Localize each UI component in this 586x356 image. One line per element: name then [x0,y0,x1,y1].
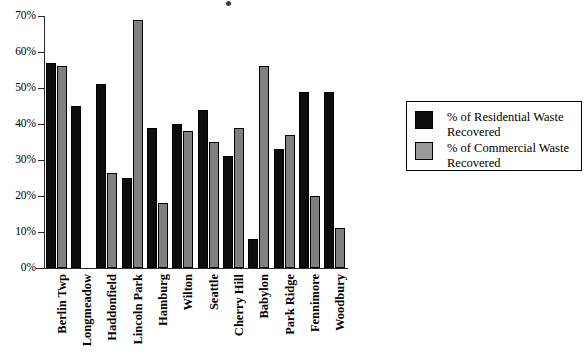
x-axis-label-text: Hamburg [156,274,169,326]
bar-commercial [310,196,320,268]
legend-label-commercial: % of Commercial Waste Recovered [447,141,575,171]
bar-commercial [158,203,168,268]
x-axis-label-text: Park Ridge [283,274,296,335]
y-axis-tick-label: 20% [2,190,36,202]
bar-residential [223,156,233,268]
bar-commercial [57,66,67,268]
y-axis-tick-label: 50% [2,82,36,94]
x-axis-label-text: Haddonfield [106,274,119,341]
bar-residential [71,106,81,268]
bar-residential [122,178,132,268]
bar-residential [274,149,284,268]
bar-residential [147,128,157,268]
x-axis-label-text: Cherry Hill [232,274,245,336]
x-axis-label: Lincoln Park [131,274,145,354]
black-square-swatch [415,111,433,129]
x-axis-label-text: Woodbury [334,274,347,331]
y-axis-tick-label-wrap: 70% [0,10,36,22]
bar-group [299,16,320,268]
x-axis-label: Fennimore [308,274,322,354]
bar-group [248,16,269,268]
cropped-title-artifact [226,1,231,6]
y-axis-tick-label-wrap: 30% [0,154,36,166]
x-axis-label-text: Fennimore [308,274,321,332]
x-axis-label: Babylon [257,274,271,354]
x-axis-label: Seattle [207,274,221,354]
bar-group [46,16,67,268]
bar-commercial [285,135,295,268]
bar-commercial [107,173,117,268]
bar-group [198,16,219,268]
bar-group [172,16,193,268]
y-axis-tick-label-wrap: 0% [0,262,36,274]
bar-residential [172,124,182,268]
x-axis-label: Cherry Hill [232,274,246,354]
y-axis-tick-label: 10% [2,226,36,238]
bar-residential [324,92,334,268]
plot-area [44,16,348,268]
y-axis-tick [38,268,45,269]
y-axis-tick-label: 0% [2,262,36,274]
bar-commercial [234,128,244,268]
bar-group [96,16,117,268]
x-axis-label: Haddonfield [105,274,119,354]
bar-group [71,16,92,268]
bar-group [122,16,143,268]
x-axis-label: Woodbury [333,274,347,354]
chart-legend: % of Residential Waste Recovered % of Co… [406,101,582,171]
y-axis-tick-label: 60% [2,46,36,58]
y-axis-tick-label-wrap: 20% [0,190,36,202]
bar-residential [299,92,309,268]
x-axis-label: Wilton [181,274,195,354]
x-axis-label-text: Wilton [182,274,195,311]
legend-label-residential: % of Residential Waste Recovered [447,110,575,140]
x-axis-label-text: Longmeadow [80,274,93,346]
bar-residential [96,84,106,268]
bar-group [274,16,295,268]
bar-residential [198,110,208,268]
legend-entry-residential: % of Residential Waste Recovered [415,110,575,140]
bar-residential [248,239,258,268]
bar-chart: 0%10%20%30%40%50%60%70% Berlin TwpLongme… [0,0,586,356]
x-axis-line [36,268,348,269]
bar-commercial [259,66,269,268]
legend-entry-commercial: % of Commercial Waste Recovered [415,141,575,171]
y-axis-tick-label-wrap: 50% [0,82,36,94]
y-axis-tick-label: 40% [2,118,36,130]
bar-commercial [133,20,143,268]
bar-group [324,16,345,268]
bar-residential [46,63,56,268]
bar-commercial [335,228,345,268]
gray-square-swatch [415,142,433,160]
x-axis-label: Longmeadow [80,274,94,354]
bar-group [223,16,244,268]
x-axis-label: Park Ridge [283,274,297,354]
x-axis-label: Berlin Twp [55,274,69,354]
bar-group [147,16,168,268]
x-axis-label-text: Lincoln Park [131,274,144,345]
y-axis-tick-label-wrap: 40% [0,118,36,130]
y-axis-tick-label-wrap: 60% [0,46,36,58]
y-axis-tick-label: 70% [2,10,36,22]
x-axis-label-text: Babylon [258,274,271,318]
bar-commercial [209,142,219,268]
x-axis-label-text: Berlin Twp [55,274,68,334]
y-axis-tick-label-wrap: 10% [0,226,36,238]
bar-commercial [183,131,193,268]
x-axis-label-text: Seattle [207,274,220,310]
x-axis-label: Hamburg [156,274,170,354]
y-axis-tick-label: 30% [2,154,36,166]
